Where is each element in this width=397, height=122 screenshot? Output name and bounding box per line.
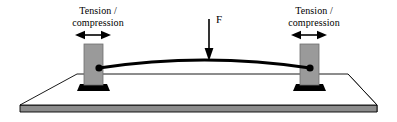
right-arrow-head-east bbox=[317, 31, 327, 39]
right-support-label: Tension / compression bbox=[262, 5, 366, 28]
beam-arc bbox=[99, 60, 310, 68]
left-tension-compression-arrow bbox=[75, 31, 111, 39]
force-label: F bbox=[216, 14, 222, 25]
left-support-label-line1: Tension / bbox=[46, 5, 150, 17]
right-support-label-line2: compression bbox=[262, 17, 366, 29]
left-support-label-line2: compression bbox=[46, 17, 150, 29]
curved-beam bbox=[95, 60, 313, 72]
force-arrow-down bbox=[205, 19, 214, 61]
left-pillar-column bbox=[84, 44, 103, 85]
right-tension-compression-arrow bbox=[291, 31, 327, 39]
beam-left-pivot bbox=[95, 64, 102, 71]
left-arrow-head-east bbox=[101, 31, 111, 39]
beam-right-pivot bbox=[306, 64, 313, 71]
right-support-label-line1: Tension / bbox=[262, 5, 366, 17]
right-arrow-head-west bbox=[291, 31, 301, 39]
ground-slab bbox=[20, 74, 377, 112]
left-support-label: Tension / compression bbox=[46, 5, 150, 28]
slab-front-edge bbox=[20, 105, 377, 112]
beam-bending-diagram: Tension / compression Tension / compress… bbox=[0, 0, 397, 122]
left-arrow-head-west bbox=[75, 31, 85, 39]
